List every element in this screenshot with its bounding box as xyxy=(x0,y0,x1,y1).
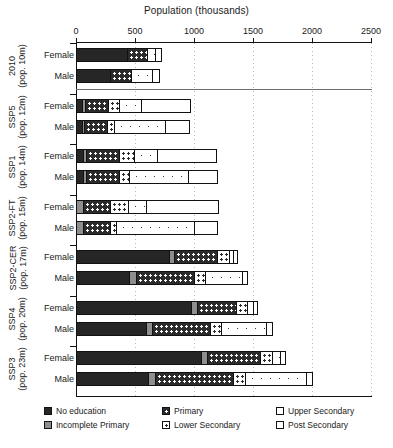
bar-segment-post-secondary[interactable] xyxy=(253,302,257,314)
bar-segment-primary[interactable] xyxy=(136,272,194,284)
bar-segment-upper-secondary[interactable] xyxy=(272,352,281,364)
bar-segment-lower-secondary[interactable] xyxy=(194,272,205,284)
bar-segment-post-secondary[interactable] xyxy=(194,222,217,234)
legend-item[interactable]: Incomplete Primary xyxy=(44,420,129,430)
legend-label: Incomplete Primary xyxy=(56,420,129,430)
table-row xyxy=(76,351,371,365)
bar-segment-no-education[interactable] xyxy=(77,272,129,284)
stacked-bar[interactable] xyxy=(76,99,191,113)
legend-label: Post Secondary xyxy=(288,420,348,430)
legend-item[interactable]: Primary xyxy=(162,406,203,416)
bar-segment-lower-secondary[interactable] xyxy=(233,373,245,385)
bar-segment-post-secondary[interactable] xyxy=(165,121,190,133)
bar-segment-lower-secondary[interactable] xyxy=(108,100,120,112)
legend-item[interactable]: Lower Secondary xyxy=(162,420,240,430)
bar-segment-primary[interactable] xyxy=(207,352,260,364)
bar-segment-lower-secondary[interactable] xyxy=(217,251,228,263)
bar-segment-no-education[interactable] xyxy=(77,251,169,263)
bar-segment-no-education[interactable] xyxy=(77,373,148,385)
bar-segment-upper-secondary[interactable] xyxy=(116,222,194,234)
scenario-axis-tick xyxy=(70,346,76,347)
stacked-bar[interactable] xyxy=(76,48,162,62)
stacked-bar[interactable] xyxy=(76,170,218,184)
bar-segment-primary[interactable] xyxy=(83,222,110,234)
bar-segment-post-secondary[interactable] xyxy=(141,100,190,112)
bar-segment-no-education[interactable] xyxy=(77,70,110,82)
bar-segment-upper-secondary[interactable] xyxy=(131,70,153,82)
bar-segment-primary[interactable] xyxy=(110,70,131,82)
bar-segment-upper-secondary[interactable] xyxy=(128,201,147,213)
legend-swatch-incomplete-primary xyxy=(44,421,52,429)
bar-segment-primary[interactable] xyxy=(174,251,217,263)
table-row xyxy=(76,149,371,163)
gender-label: Female xyxy=(20,48,74,62)
stacked-bar[interactable] xyxy=(76,200,219,214)
scenario-axis-tick xyxy=(70,245,76,246)
bar-segment-upper-secondary[interactable] xyxy=(147,49,156,61)
legend-item[interactable]: Post Secondary xyxy=(276,420,348,430)
table-row xyxy=(76,200,371,214)
bar-segment-primary[interactable] xyxy=(84,121,107,133)
stacked-bar[interactable] xyxy=(76,271,248,285)
x-tick-label: 0 xyxy=(73,26,78,36)
gender-label: Female xyxy=(20,301,74,315)
bar-segment-post-secondary[interactable] xyxy=(306,373,311,385)
bar-segment-no-education[interactable] xyxy=(77,49,127,61)
bar-segment-primary[interactable] xyxy=(86,171,120,183)
bar-segment-post-secondary[interactable] xyxy=(146,201,218,213)
bar-segment-upper-secondary[interactable] xyxy=(119,100,141,112)
bar-segment-upper-secondary[interactable] xyxy=(221,323,265,335)
bar-segment-lower-secondary[interactable] xyxy=(119,171,128,183)
stacked-bar[interactable] xyxy=(76,120,190,134)
plot-area xyxy=(76,43,371,397)
gridline xyxy=(371,43,372,397)
bar-segment-upper-secondary[interactable] xyxy=(134,150,157,162)
x-tick-label: 2000 xyxy=(302,26,322,36)
stacked-bar[interactable] xyxy=(76,351,286,365)
stacked-bar[interactable] xyxy=(76,69,160,83)
stacked-bar[interactable] xyxy=(76,322,273,336)
table-row xyxy=(76,170,371,184)
bar-segment-post-secondary[interactable] xyxy=(280,352,285,364)
bar-segment-primary[interactable] xyxy=(155,373,233,385)
bar-segment-post-secondary[interactable] xyxy=(152,70,158,82)
stacked-bar[interactable] xyxy=(76,149,217,163)
bar-segment-primary[interactable] xyxy=(86,150,119,162)
bar-segment-upper-secondary[interactable] xyxy=(129,171,188,183)
stacked-bar[interactable] xyxy=(76,301,258,315)
bar-segment-lower-secondary[interactable] xyxy=(119,150,134,162)
bar-segment-post-secondary[interactable] xyxy=(233,251,237,263)
stacked-bar[interactable] xyxy=(76,372,313,386)
bar-segment-post-secondary[interactable] xyxy=(155,49,160,61)
legend-item[interactable]: No education xyxy=(44,406,106,416)
bar-segment-lower-secondary[interactable] xyxy=(260,352,272,364)
bar-segment-post-secondary[interactable] xyxy=(266,323,272,335)
bar-segment-upper-secondary[interactable] xyxy=(205,272,242,284)
bar-segment-no-education[interactable] xyxy=(77,352,201,364)
bar-segment-post-secondary[interactable] xyxy=(242,272,247,284)
legend-swatch-primary xyxy=(162,407,170,415)
bar-segment-no-education[interactable] xyxy=(77,323,146,335)
bar-segment-post-secondary[interactable] xyxy=(157,150,216,162)
gender-label: Female xyxy=(20,250,74,264)
legend-label: Upper Secondary xyxy=(288,406,354,416)
stacked-bar[interactable] xyxy=(76,221,218,235)
scenario-axis-tick xyxy=(70,94,76,95)
bar-segment-lower-secondary[interactable] xyxy=(110,201,127,213)
bar-segment-no-education[interactable] xyxy=(77,302,191,314)
scenario-axis-tick xyxy=(70,195,76,196)
bar-segment-primary[interactable] xyxy=(152,323,210,335)
bar-segment-primary[interactable] xyxy=(83,201,110,213)
bar-segment-primary[interactable] xyxy=(197,302,237,314)
bar-segment-lower-secondary[interactable] xyxy=(236,302,247,314)
table-row xyxy=(76,271,371,285)
legend-item[interactable]: Upper Secondary xyxy=(276,406,354,416)
stacked-bar[interactable] xyxy=(76,250,238,264)
bar-segment-post-secondary[interactable] xyxy=(188,171,217,183)
bar-segment-upper-secondary[interactable] xyxy=(245,373,306,385)
bar-segment-primary[interactable] xyxy=(85,100,108,112)
bar-segment-upper-secondary[interactable] xyxy=(114,121,165,133)
bar-segment-primary[interactable] xyxy=(127,49,147,61)
bar-segment-lower-secondary[interactable] xyxy=(210,323,221,335)
gender-label: Male xyxy=(20,322,74,336)
